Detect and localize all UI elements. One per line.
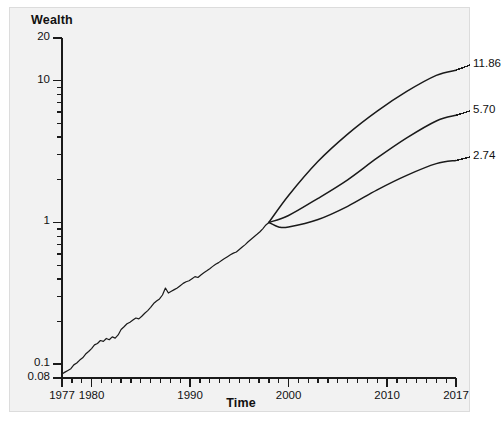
y-tick-label: 20 <box>0 30 50 42</box>
x-tick-label: 1980 <box>66 389 118 401</box>
x-tick-label: 2017 <box>430 389 482 401</box>
x-tick-label: 1990 <box>164 389 216 401</box>
upper-projection-endpoint: 11.86 <box>473 57 501 69</box>
y-tick-label: 0.1 <box>0 356 50 368</box>
y-tick-label: 1 <box>0 214 50 226</box>
middle-projection-endpoint: 5.70 <box>473 103 495 115</box>
plot-frame <box>9 7 470 412</box>
lower-projection-endpoint: 2.74 <box>473 149 495 161</box>
y-tick-label: 10 <box>0 73 50 85</box>
x-tick-label: 2010 <box>361 389 413 401</box>
x-tick-label: 2000 <box>263 389 315 401</box>
y-tick-label: 0.08 <box>0 370 50 382</box>
y-axis-title: Wealth <box>31 13 73 27</box>
